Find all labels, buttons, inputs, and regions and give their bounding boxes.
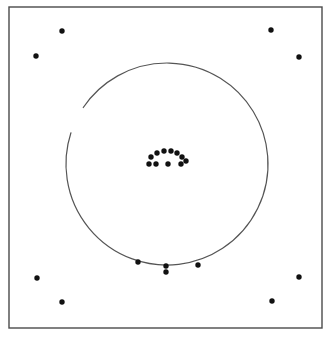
data-point-arch-low-4 [178, 161, 183, 166]
data-point-arch-top-4 [168, 148, 173, 153]
data-point-arch-top-2 [154, 150, 159, 155]
data-point-corner-tr-outer [296, 54, 301, 59]
data-point-corner-tl-inner [59, 28, 64, 33]
data-point-corner-tr-inner [268, 27, 273, 32]
data-point-corner-br-inner [269, 298, 274, 303]
data-point-arch-top-7 [183, 158, 188, 163]
data-point-corner-bl-outer [34, 275, 39, 280]
data-point-corner-tl-outer [33, 53, 38, 58]
data-point-arch-low-1 [146, 161, 151, 166]
data-point-arch-top-5 [174, 150, 179, 155]
data-point-arch-low-2 [153, 161, 158, 166]
figure-background [0, 0, 331, 340]
data-point-arch-top-3 [161, 148, 166, 153]
figure-canvas [0, 0, 331, 340]
data-point-arc-pt-right [195, 262, 200, 267]
data-point-arch-top-6 [179, 154, 184, 159]
data-point-corner-bl-inner [59, 299, 64, 304]
data-point-corner-br-outer [296, 274, 301, 279]
scatter-figure [0, 0, 331, 340]
data-point-arc-pt-mid-lower [163, 269, 168, 274]
data-point-arch-low-3 [165, 161, 170, 166]
data-point-arc-pt-mid-upper [163, 263, 168, 268]
data-point-arch-top-1 [148, 154, 153, 159]
data-point-arc-pt-left [135, 259, 140, 264]
